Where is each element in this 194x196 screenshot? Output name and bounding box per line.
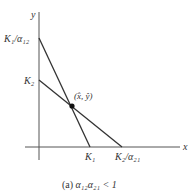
intercept-label-k1-over-a12: K₁/α₁₂ [3, 33, 30, 44]
caption-prefix: (a) [62, 179, 76, 191]
phase-plane-diagram: y x K₁/α₁₂ K₂ K₁ K₂/α₂₁ (x̂, ŷ) (a) α₁₂α… [0, 0, 194, 196]
y-axis-label: y [30, 9, 36, 20]
intercept-label-k2-over-a21: K₂/α₂₁ [114, 151, 140, 162]
figure-caption: (a) α₁₂α₂₁ < 1 [62, 179, 117, 191]
intercept-label-k1: K₁ [84, 151, 95, 162]
equilibrium-point [69, 103, 74, 108]
intercept-label-k2: K₂ [23, 75, 35, 86]
x-axis-label: x [182, 141, 188, 152]
caption-condition: α₁₂α₂₁ < 1 [76, 179, 117, 190]
equilibrium-label: (x̂, ŷ) [74, 91, 92, 101]
